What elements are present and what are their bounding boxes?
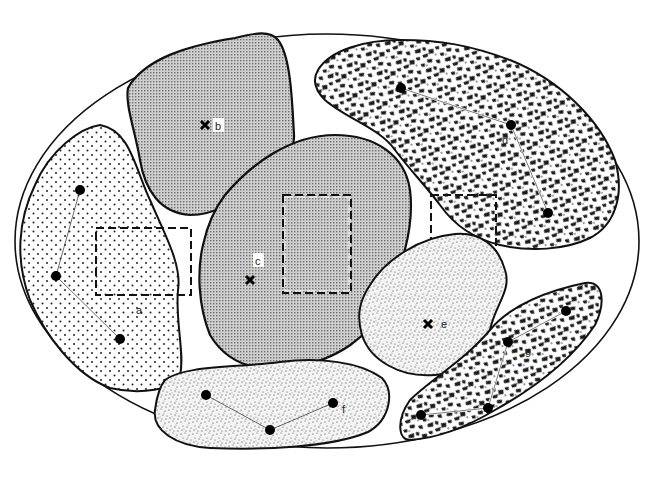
marker-dot — [561, 306, 571, 316]
marker-dot — [201, 390, 211, 400]
region-label-a: a — [136, 304, 143, 316]
region-label-b: b — [215, 120, 221, 132]
marker-dot — [416, 410, 426, 420]
marker-dot — [328, 398, 338, 408]
region-f: f — [155, 360, 389, 448]
marker-dot — [75, 185, 85, 195]
marker-dot — [483, 403, 493, 413]
region-label-g: g — [525, 345, 531, 357]
region-diagram: a b c d e — [0, 0, 652, 483]
marker-dot — [506, 120, 516, 130]
marker-dot — [503, 337, 513, 347]
marker-dot — [115, 334, 125, 344]
region-label-c: c — [255, 255, 261, 267]
marker-dot — [51, 271, 61, 281]
marker-dot — [543, 208, 553, 218]
region-label-e: e — [441, 318, 447, 330]
marker-dot — [265, 425, 275, 435]
region-label-d: d — [502, 134, 508, 146]
marker-dot — [396, 83, 406, 93]
